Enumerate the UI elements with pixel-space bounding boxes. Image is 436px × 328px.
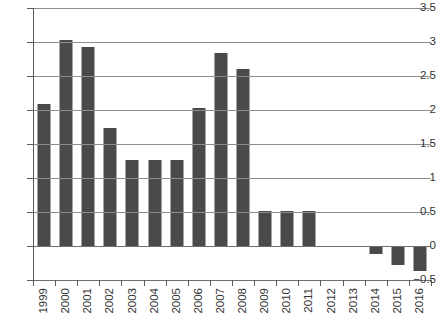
gridline: [33, 42, 431, 43]
x-tick-label-text: 2007: [215, 288, 227, 314]
y-tick-label: 3: [408, 36, 436, 48]
bar: [104, 128, 117, 246]
x-tick-mark: [99, 280, 100, 286]
x-tick-label-text: 2000: [60, 288, 72, 314]
gridline: [33, 144, 431, 145]
x-tick-mark: [210, 280, 211, 286]
bar: [237, 69, 250, 246]
bar: [303, 211, 316, 246]
bar: [38, 104, 51, 246]
gridline: [33, 178, 431, 179]
bar: [126, 160, 139, 246]
x-tick-mark: [77, 280, 78, 286]
x-tick-label-text: 2009: [259, 288, 271, 314]
bar: [60, 40, 73, 246]
bar: [281, 211, 294, 246]
gridline: [33, 212, 431, 213]
x-tick-mark: [431, 280, 432, 286]
x-tick-mark: [33, 280, 34, 286]
y-tick-mark: [27, 42, 33, 43]
y-tick-label: 2.5: [408, 70, 436, 82]
x-tick-label-text: 2015: [392, 288, 404, 314]
x-tick-mark: [387, 280, 388, 286]
y-tick-label: 1.5: [408, 138, 436, 150]
bar: [369, 246, 382, 254]
x-tick-label-text: 2008: [237, 288, 249, 314]
x-tick-label-text: 2001: [83, 288, 95, 314]
y-axis-spine: [33, 8, 34, 280]
bar: [148, 160, 161, 246]
y-tick-mark: [27, 76, 33, 77]
y-tick-label: 3.5: [408, 2, 436, 14]
x-tick-label-text: 2013: [348, 288, 360, 314]
x-tick-label-text: 2005: [171, 288, 183, 314]
gridline: [33, 246, 431, 247]
plot-area: [33, 8, 431, 280]
x-tick-mark: [55, 280, 56, 286]
gridline: [33, 8, 431, 9]
x-tick-mark: [144, 280, 145, 286]
y-tick-label: 1: [408, 172, 436, 184]
x-tick-label-text: 2010: [282, 288, 294, 314]
y-tick-mark: [27, 8, 33, 9]
y-tick-label: 0: [408, 240, 436, 252]
bar: [214, 53, 227, 246]
x-tick-label-text: 2014: [370, 288, 382, 314]
bar: [192, 108, 205, 246]
bar-chart: 3.532.521.510.50−0.5 1999200020012002200…: [0, 0, 436, 328]
bar: [170, 160, 183, 246]
y-tick-mark: [27, 110, 33, 111]
x-tick-mark: [276, 280, 277, 286]
x-tick-label-text: 2006: [193, 288, 205, 314]
x-tick-label-text: 1999: [38, 288, 50, 314]
y-tick-mark: [27, 212, 33, 213]
y-tick-label: 0.5: [408, 206, 436, 218]
x-tick-label-text: 2016: [414, 288, 426, 314]
x-tick-mark: [232, 280, 233, 286]
x-tick-label-text: 2002: [105, 288, 117, 314]
x-tick-mark: [343, 280, 344, 286]
bar: [391, 246, 404, 265]
x-tick-mark: [298, 280, 299, 286]
x-tick-mark: [121, 280, 122, 286]
x-tick-label-text: 2003: [127, 288, 139, 314]
bar: [259, 211, 272, 246]
x-tick-label-text: 2004: [149, 288, 161, 314]
gridline: [33, 110, 431, 111]
y-tick-mark: [27, 144, 33, 145]
x-tick-mark: [365, 280, 366, 286]
y-tick-mark: [27, 246, 33, 247]
x-tick-mark: [409, 280, 410, 286]
gridline: [33, 76, 431, 77]
x-tick-label-text: 2011: [304, 288, 316, 313]
x-tick-mark: [166, 280, 167, 286]
y-tick-label: 2: [408, 104, 436, 116]
x-tick-mark: [188, 280, 189, 286]
x-tick-mark: [254, 280, 255, 286]
y-tick-mark: [27, 178, 33, 179]
x-tick-label-text: 2012: [326, 288, 338, 314]
x-tick-mark: [320, 280, 321, 286]
